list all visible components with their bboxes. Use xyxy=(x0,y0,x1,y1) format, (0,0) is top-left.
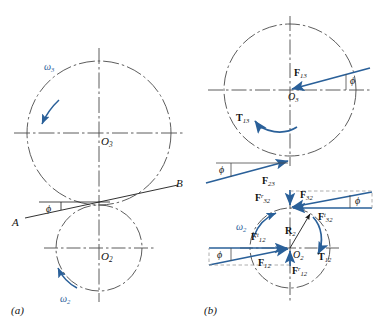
panel-tag-b: (b) xyxy=(204,305,217,316)
label-force-F12-resultant: F12 xyxy=(258,258,271,269)
label-omega3-panel-a: ω3 xyxy=(44,62,54,73)
label-force-F23: F23 xyxy=(262,176,275,187)
label-O3-panel-a: O3 xyxy=(101,136,113,149)
torque-T13-arc-arrow xyxy=(255,121,297,132)
panel-b-graphics xyxy=(206,16,372,302)
label-phi-F23: ϕ xyxy=(219,165,224,175)
label-line-A: A xyxy=(12,217,19,228)
label-phi-F32: ϕ xyxy=(355,196,360,206)
label-line-B: B xyxy=(176,178,183,189)
figure-vector xyxy=(0,0,380,327)
label-force-F32-radial: Fr32 xyxy=(255,193,270,204)
label-phi-F12: ϕ xyxy=(217,250,222,260)
label-phi-F13: ϕ xyxy=(350,76,355,86)
label-torque-T12: T12 xyxy=(318,252,331,263)
label-omega2-panel-a: ω2 xyxy=(60,294,70,305)
label-force-F12-radial: Fr12 xyxy=(292,266,307,277)
label-reaction-R2: R2 xyxy=(285,226,296,237)
label-force-F32-tangential: Ft32 xyxy=(318,212,332,223)
label-force-F12-tangential: Ft12 xyxy=(251,232,265,243)
label-force-F32-resultant: F32 xyxy=(300,190,313,201)
label-torque-T13: T13 xyxy=(236,113,249,124)
figure-canvas: O3 O2 ω3 ω2 ϕ A B (a) O3 O2 F13 T13 ϕ F2… xyxy=(0,0,380,327)
omega2-arc-arrow-a xyxy=(58,268,77,288)
label-omega2-panel-b: ω2 xyxy=(236,222,246,233)
label-force-F13: F13 xyxy=(294,68,307,79)
panel-tag-a: (a) xyxy=(11,305,24,316)
label-pressure-angle-panel-a: ϕ xyxy=(46,204,51,214)
omega3-arc-arrow-a xyxy=(42,100,59,124)
label-O2-panel-a: O2 xyxy=(101,251,113,264)
label-O3-panel-b: O3 xyxy=(288,92,299,103)
label-O2-panel-b: O2 xyxy=(293,250,304,261)
panel-a-graphics xyxy=(14,48,184,302)
